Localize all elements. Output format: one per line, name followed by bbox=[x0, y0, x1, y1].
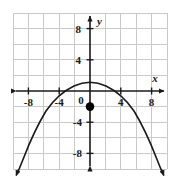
x-tick-label-pos4: 4 bbox=[118, 96, 124, 108]
coordinate-plane-figure: x y 0 -8 -4 4 8 8 4 -4 -8 bbox=[0, 0, 180, 182]
origin-label: 0 bbox=[78, 94, 84, 106]
x-tick-label-neg8: -8 bbox=[24, 96, 34, 108]
y-tick-label-pos4: 4 bbox=[76, 54, 82, 66]
y-tick-label-neg8: -8 bbox=[73, 147, 83, 159]
x-tick-label-neg4: -4 bbox=[55, 96, 65, 108]
y-tick-label-pos8: 8 bbox=[76, 23, 82, 35]
x-axis-label: x bbox=[151, 72, 158, 84]
y-axis-label: y bbox=[95, 15, 102, 27]
y-tick-label-neg4: -4 bbox=[73, 116, 83, 128]
x-tick-label-pos8: 8 bbox=[149, 96, 155, 108]
plotted-point[interactable] bbox=[86, 102, 95, 111]
graph-canvas: x y 0 -8 -4 4 8 8 4 -4 -8 bbox=[0, 0, 180, 182]
